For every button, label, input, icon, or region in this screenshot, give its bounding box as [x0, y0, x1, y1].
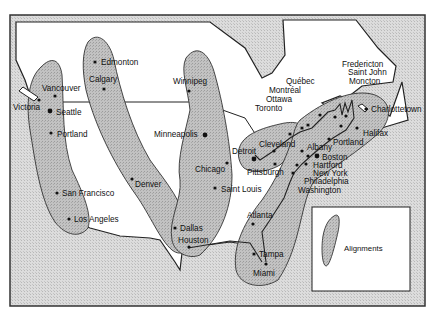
city-marker	[300, 149, 303, 152]
city-label: Minneapolis	[154, 130, 198, 139]
city-label: Philadelphia	[304, 177, 349, 186]
city-marker	[55, 191, 58, 194]
city-label: Saint John	[348, 68, 387, 77]
city-label: Atlanta	[247, 211, 273, 220]
city-marker	[355, 126, 358, 129]
city-marker	[306, 154, 309, 157]
city-label: Seattle	[56, 108, 82, 117]
city-marker	[213, 186, 216, 189]
city-label: Portland	[57, 130, 88, 139]
city-marker	[187, 245, 190, 248]
city-label: Albany	[307, 143, 333, 152]
city-marker	[53, 94, 56, 97]
city-marker	[315, 154, 320, 159]
city-label: Denver	[135, 180, 162, 189]
city-label: Saint Louis	[221, 185, 262, 194]
city-marker	[273, 162, 276, 165]
city-marker	[252, 157, 257, 162]
city-label: Miami	[253, 269, 275, 278]
city-marker	[48, 109, 53, 114]
city-marker	[327, 137, 330, 140]
city-label: Los Angeles	[74, 215, 119, 224]
city-marker	[295, 163, 298, 166]
city-label: Ottawa	[266, 95, 292, 104]
legend-label: Alignments	[344, 244, 383, 253]
city-label: Washington	[298, 186, 341, 195]
city-marker	[67, 217, 70, 220]
city-marker	[252, 252, 255, 255]
city-marker	[225, 161, 228, 164]
city-label: Moncton	[349, 77, 381, 86]
city-label: Dallas	[180, 224, 203, 233]
city-marker	[187, 89, 190, 92]
alignments-map: Alignments VictoriaVancouverSeattlePortl…	[0, 0, 434, 317]
city-label: Detroit	[232, 147, 257, 156]
city-label: Chicago	[195, 165, 225, 174]
city-marker	[306, 123, 309, 126]
city-marker	[339, 124, 342, 127]
city-marker	[318, 113, 321, 116]
city-label: San Francisco	[62, 189, 115, 198]
city-label: Québec	[286, 77, 315, 86]
city-label: Pittsburgh	[247, 168, 284, 177]
city-marker	[364, 107, 367, 110]
city-marker	[173, 226, 176, 229]
city-label: Portland	[333, 138, 364, 147]
city-label: Victoria	[13, 103, 41, 112]
city-marker	[251, 222, 254, 225]
city-label: Halifax	[363, 129, 388, 138]
city-marker	[272, 149, 275, 152]
city-label: Vancouver	[42, 84, 81, 93]
legend: Alignments	[312, 207, 410, 291]
city-label: Calgary	[89, 75, 118, 84]
city-marker	[130, 177, 133, 180]
city-marker	[49, 131, 52, 134]
city-marker	[288, 132, 291, 135]
city-marker	[300, 126, 303, 129]
city-label: Charlottetown	[371, 105, 422, 114]
city-marker	[333, 115, 336, 118]
city-label: Toronto	[255, 104, 283, 113]
city-label: Tampa	[259, 250, 284, 259]
city-label: Cleveland	[259, 140, 296, 149]
city-marker	[93, 60, 96, 63]
city-marker	[304, 162, 307, 165]
city-label: Houston	[178, 236, 209, 245]
city-label: Montréal	[269, 86, 301, 95]
city-marker	[264, 262, 267, 265]
city-marker	[291, 171, 294, 174]
city-marker	[344, 114, 347, 117]
city-marker	[37, 98, 40, 101]
city-marker	[102, 87, 105, 90]
city-label: Edmonton	[101, 58, 139, 67]
city-label: Winnipeg	[173, 77, 208, 86]
city-marker	[203, 133, 208, 138]
